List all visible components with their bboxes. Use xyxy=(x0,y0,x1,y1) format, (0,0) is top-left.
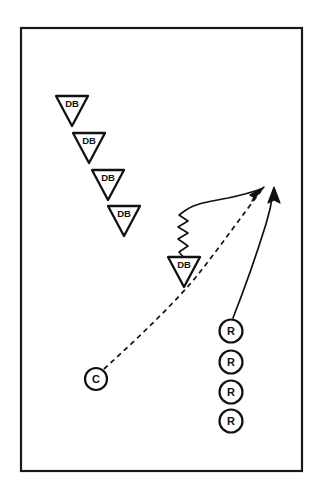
receiver-1-label: R xyxy=(227,325,235,337)
marker-coach[interactable]: C xyxy=(85,368,107,390)
db-2-label: DB xyxy=(82,135,96,146)
db-4-label: DB xyxy=(117,208,131,219)
db-1-label: DB xyxy=(65,98,79,109)
db-5-label: DB xyxy=(177,259,191,270)
marker-receiver-4[interactable]: R xyxy=(220,410,243,433)
marker-receiver-2[interactable]: R xyxy=(220,351,243,374)
play-diagram-canvas: DB DB DB DB DB R R R xyxy=(0,0,317,494)
receiver-2-label: R xyxy=(227,356,235,368)
coach-label: C xyxy=(92,373,100,385)
marker-receiver-1[interactable]: R xyxy=(220,320,243,343)
receiver-4-label: R xyxy=(227,415,235,427)
db-3-label: DB xyxy=(101,172,115,183)
receiver-3-label: R xyxy=(227,386,235,398)
marker-receiver-3[interactable]: R xyxy=(220,381,243,404)
play-diagram-svg: DB DB DB DB DB R R R xyxy=(0,0,317,494)
diagram-background xyxy=(0,0,317,494)
